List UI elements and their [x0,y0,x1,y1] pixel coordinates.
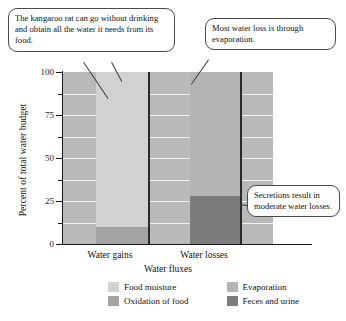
x-tick-label-water-gains: Water gains [68,250,152,260]
legend-swatch-food-moisture [108,282,119,292]
callout-evaporation: Most water loss is through evaporation. [205,18,336,50]
legend-label-food-moisture: Food moisture [124,282,222,292]
chart-figure: 100 75 50 25 0 Percent of total water bu… [0,0,346,321]
bar-segment-oxidation-of-food [96,227,148,244]
legend-label-oxidation-of-food: Oxidation of food [124,296,222,306]
y-tick-minor [58,223,62,224]
x-axis-line [62,244,312,245]
y-tick-label-25: 25 [24,197,54,206]
y-tick-major [56,72,62,73]
y-tick-minor [58,180,62,181]
y-tick-minor [58,94,62,95]
bar-water-gains [96,72,150,244]
legend-label-feces-and-urine: Feces and urine [243,296,341,306]
y-tick-major [56,244,62,245]
bar-segment-feces-and-urine [190,196,240,244]
x-axis-title: Water fluxes [63,264,273,274]
bar-segment-evaporation [190,72,240,196]
y-tick-label-50: 50 [24,154,54,163]
bar-water-losses [190,72,242,244]
y-tick-major [56,115,62,116]
legend-label-evaporation: Evaporation [243,282,341,292]
legend-swatch-oxidation-of-food [108,296,119,306]
callout-secretions: Secretions result in moderate water loss… [247,185,340,217]
y-tick-label-75: 75 [24,111,54,120]
y-axis-line [62,71,63,245]
chart-legend: Food moisture Evaporation Oxidation of f… [108,282,340,306]
y-tick-major [56,158,62,159]
bar-segment-food-moisture [96,72,148,227]
y-tick-major [56,201,62,202]
plot-area [63,72,273,244]
y-tick-label-100: 100 [24,68,54,77]
x-tick-label-water-losses: Water losses [162,250,246,260]
y-axis-title: Percent of total water budget [18,85,28,235]
legend-swatch-feces-and-urine [227,296,238,306]
legend-swatch-evaporation [227,282,238,292]
y-tick-minor [58,137,62,138]
callout-kangaroo-rat: The kangaroo rat can go without drinking… [8,8,175,52]
y-tick-label-0: 0 [24,240,54,249]
